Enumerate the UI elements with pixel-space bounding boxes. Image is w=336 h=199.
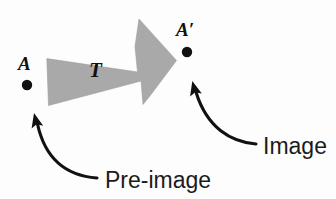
image-caption: Image: [263, 133, 327, 159]
preimage-callout-arrow: [32, 113, 97, 178]
image-point-group: A′: [175, 19, 194, 57]
image-callout-arrow: [190, 81, 256, 144]
image-point-dot: [182, 47, 192, 57]
transformation-figure: T A A′ Pre-image Image: [0, 0, 336, 199]
preimage-caption: Pre-image: [105, 167, 211, 193]
transform-block-arrow: [47, 19, 177, 106]
image-point-label: A′: [175, 19, 194, 40]
preimage-point-group: A: [17, 53, 32, 90]
preimage-point-label: A: [17, 53, 31, 74]
preimage-point-dot: [22, 80, 32, 90]
figure-canvas: T A A′ Pre-image Image: [0, 0, 336, 199]
transform-label: T: [89, 58, 103, 82]
